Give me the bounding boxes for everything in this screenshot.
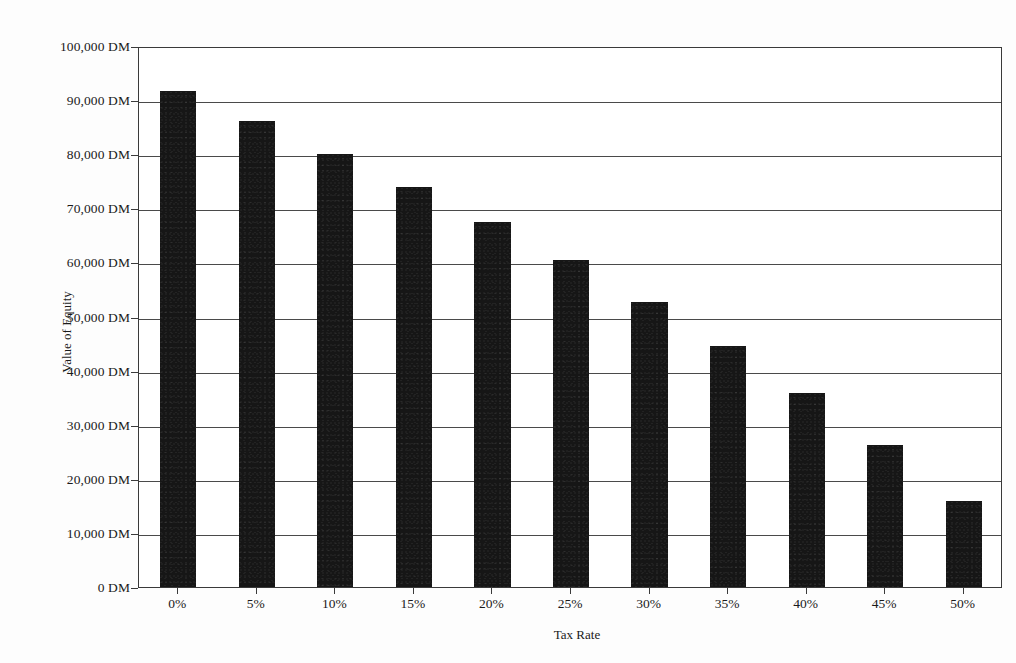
x-tick-label: 35% — [715, 596, 740, 612]
x-tick-mark — [963, 588, 964, 594]
y-tick-mark — [131, 534, 138, 535]
x-tick-mark — [806, 588, 807, 594]
y-tick-mark — [131, 372, 138, 373]
x-tick-mark — [413, 588, 414, 594]
y-tick-label: 0 DM — [98, 580, 130, 596]
y-tick-label: 60,000 DM — [67, 255, 130, 271]
x-tick-label: 30% — [636, 596, 661, 612]
x-tick-mark — [177, 588, 178, 594]
y-tick-mark — [131, 209, 138, 210]
x-tick-mark — [491, 588, 492, 594]
x-tick-label: 15% — [401, 596, 426, 612]
bar — [239, 121, 275, 587]
bar — [631, 302, 667, 587]
plot-area — [138, 47, 1002, 588]
bar — [946, 501, 982, 587]
x-tick-label: 45% — [872, 596, 897, 612]
y-tick-label: 70,000 DM — [67, 201, 130, 217]
y-tick-label: 40,000 DM — [67, 364, 130, 380]
y-tick-mark — [131, 101, 138, 102]
x-axis-title: Tax Rate — [0, 627, 1016, 643]
y-tick-label: 100,000 DM — [60, 39, 130, 55]
bar — [553, 260, 589, 587]
x-tick-mark — [570, 588, 571, 594]
y-axis-title: Value of Equity — [59, 291, 75, 373]
x-tick-mark — [884, 588, 885, 594]
bar — [867, 445, 903, 587]
bar — [160, 91, 196, 587]
bar — [474, 222, 510, 587]
x-tick-label: 5% — [247, 596, 265, 612]
y-tick-mark — [131, 426, 138, 427]
y-tick-label: 50,000 DM — [67, 310, 130, 326]
x-tick-label: 40% — [793, 596, 818, 612]
x-tick-mark — [256, 588, 257, 594]
y-tick-label: 20,000 DM — [67, 472, 130, 488]
y-tick-mark — [131, 263, 138, 264]
chart-figure: 0 DM10,000 DM20,000 DM30,000 DM40,000 DM… — [0, 0, 1016, 663]
bar — [710, 346, 746, 587]
x-tick-mark — [727, 588, 728, 594]
y-tick-mark — [131, 480, 138, 481]
bar — [789, 393, 825, 587]
y-tick-mark — [131, 47, 138, 48]
x-tick-mark — [334, 588, 335, 594]
y-tick-label: 90,000 DM — [67, 93, 130, 109]
x-tick-label: 50% — [950, 596, 975, 612]
x-tick-label: 0% — [168, 596, 186, 612]
x-tick-label: 10% — [322, 596, 347, 612]
x-tick-label: 25% — [558, 596, 583, 612]
y-tick-mark — [131, 588, 138, 589]
x-tick-label: 20% — [479, 596, 504, 612]
bar — [396, 187, 432, 587]
y-tick-label: 80,000 DM — [67, 147, 130, 163]
bar — [317, 154, 353, 587]
gridline — [139, 102, 1001, 103]
y-tick-label: 10,000 DM — [67, 526, 130, 542]
x-tick-mark — [649, 588, 650, 594]
x-axis-title-text: Tax Rate — [554, 627, 600, 642]
y-tick-label: 30,000 DM — [67, 418, 130, 434]
y-tick-mark — [131, 318, 138, 319]
y-tick-mark — [131, 155, 138, 156]
